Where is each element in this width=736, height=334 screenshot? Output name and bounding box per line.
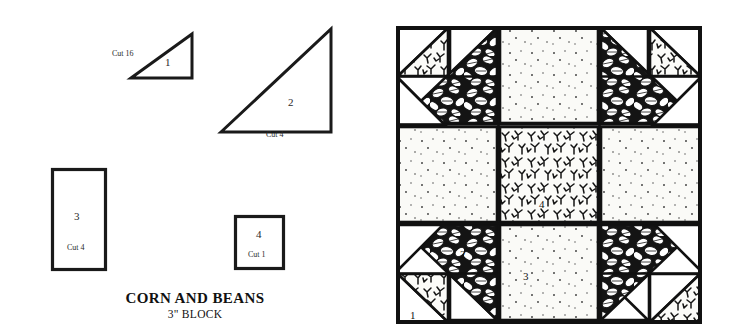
template-pieces-panel: 1 Cut 16 2 Cut 4 3 Cut 4 4 Cut 1 <box>0 0 390 334</box>
block-label-2: 2 <box>460 248 466 260</box>
quilt-block-diagram: 1 2 3 4 <box>396 26 702 324</box>
piece-4-number: 4 <box>256 228 262 240</box>
piece-3-number: 3 <box>74 210 80 222</box>
template-piece-4: 4 Cut 1 <box>233 214 286 271</box>
piece-2-number: 2 <box>288 96 294 108</box>
template-piece-1: 1 <box>128 30 196 82</box>
template-piece-2: 2 Cut 4 <box>218 26 338 136</box>
template-piece-3: 3 Cut 4 <box>50 167 108 272</box>
block-unit-rect-3 <box>601 127 700 222</box>
piece-1-number: 1 <box>165 56 171 68</box>
block-label-4: 4 <box>539 198 545 210</box>
block-unit-rect-3 <box>500 28 598 123</box>
piece-4-cut-label: Cut 1 <box>248 250 266 259</box>
quilt-pattern-page: 1 Cut 16 2 Cut 4 3 Cut 4 4 Cut 1 <box>0 0 736 334</box>
block-unit-rect-3 <box>500 225 598 320</box>
pattern-title: CORN AND BEANS <box>0 290 390 307</box>
piece-1-cut-label: Cut 16 <box>112 49 134 58</box>
pattern-subtitle: 3" BLOCK <box>0 308 390 320</box>
piece-3-cut-label: Cut 4 <box>67 243 85 252</box>
block-label-1: 1 <box>410 309 416 321</box>
piece-2-cut-label: Cut 4 <box>266 130 284 139</box>
block-unit-rect-3 <box>398 127 497 222</box>
block-unit-center-square-4 <box>500 127 598 222</box>
pattern-title-block: CORN AND BEANS 3" BLOCK <box>0 290 390 320</box>
block-label-3: 3 <box>523 270 529 282</box>
